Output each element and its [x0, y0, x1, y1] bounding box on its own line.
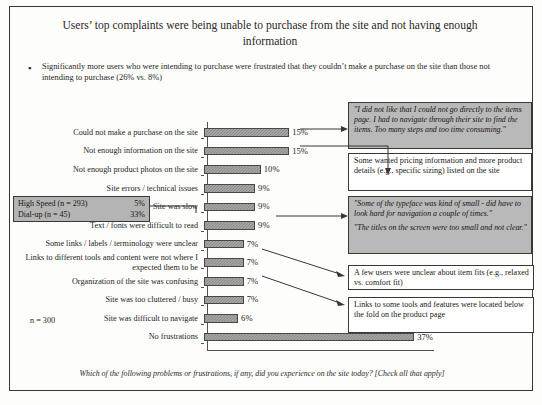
chart-bar [204, 296, 244, 305]
chart-category-label: Text / fonts were difficult to read [14, 221, 204, 231]
chart-tick [201, 324, 204, 325]
callout-pricing-details: Some wanted pricing information and more… [348, 153, 532, 191]
callout-quote-typeface: "Some of the typeface was kind of small … [348, 196, 532, 254]
chart-category-label: Site errors / technical issues [14, 184, 204, 194]
chart-tick [201, 194, 204, 195]
chart-bar [204, 258, 244, 267]
page-title: Users’ top complaints were being unable … [40, 18, 500, 49]
chart-bar [204, 314, 238, 323]
chart-bar [204, 203, 255, 212]
chart-tick [201, 343, 204, 344]
chart-tick [201, 250, 204, 251]
bullet-marker-icon: ▪ [28, 61, 42, 75]
chart-value-label: 9% [258, 184, 269, 193]
chart-value-label: 9% [258, 221, 269, 230]
chart-tick [201, 157, 204, 158]
callout-item-fits: A few users were unclear about item fits… [348, 265, 534, 290]
callout-paragraph: A few users were unclear about item fits… [354, 268, 529, 289]
chart-x-axis [207, 350, 434, 351]
chart-value-label: 9% [258, 202, 269, 211]
chart-bar [204, 277, 244, 286]
chart-category-label: Not enough information on the site [14, 146, 204, 156]
callout-paragraph: Links to some tools and features were lo… [354, 300, 529, 321]
bullet-row: ▪ Significantly more users who were inte… [28, 61, 515, 84]
speed-breakdown-callout: High Speed (n = 293) 5% Dial-up (n = 45)… [13, 196, 150, 222]
chart-tick [201, 268, 204, 269]
speed-row: Dial-up (n = 45) 33% [18, 209, 145, 220]
chart-tick [201, 175, 204, 176]
chart-bar [204, 221, 255, 230]
chart-category-label: Links to different tools and content wer… [14, 253, 204, 271]
callout-paragraph: "The titles on the screen were too small… [354, 223, 527, 233]
footer-question: Which of the following problems or frust… [0, 369, 524, 378]
chart-value-label: 7% [247, 277, 258, 286]
speed-row-value: 5% [119, 198, 145, 209]
chart-tick [201, 138, 204, 139]
sample-size-label: n = 300 [30, 316, 55, 325]
chart-value-label: 7% [247, 295, 258, 304]
chart-tick [201, 212, 204, 213]
slide-canvas: Users’ top complaints were being unable … [0, 0, 542, 405]
speed-row: High Speed (n = 293) 5% [18, 198, 145, 209]
callout-quote-purchase: "I did not like that I could not go dire… [348, 102, 532, 149]
chart-value-label: 37% [417, 333, 433, 342]
chart-category-label: Could not make a purchase on the site [14, 128, 204, 138]
chart-value-label: 15% [292, 128, 308, 137]
chart-value-label: 6% [241, 314, 252, 323]
chart-tick [201, 231, 204, 232]
chart-bar [204, 184, 255, 193]
chart-bar [204, 128, 289, 137]
chart-bar [204, 147, 289, 156]
chart-category-label: Organization of the site was confusing [14, 277, 204, 287]
callout-paragraph: "Some of the typeface was kind of small … [354, 199, 527, 219]
chart-bar [204, 240, 244, 249]
chart-bar [204, 165, 261, 174]
chart-category-label: Not enough product photos on the site [14, 165, 204, 175]
bullet-text: Significantly more users who were intend… [42, 61, 515, 84]
chart-category-label: Some links / labels / terminology were u… [14, 239, 204, 248]
speed-row-label: High Speed (n = 293) [18, 198, 119, 209]
chart-bar [204, 333, 414, 342]
chart-value-label: 10% [264, 165, 280, 174]
chart-value-label: 7% [247, 258, 258, 267]
callout-paragraph: "I did not like that I could not go dire… [354, 105, 527, 135]
callout-paragraph: Some wanted pricing information and more… [354, 156, 527, 177]
chart-tick [201, 287, 204, 288]
chart-category-label: No frustrations [14, 332, 204, 342]
speed-row-label: Dial-up (n = 45) [18, 209, 119, 220]
speed-row-value: 33% [119, 209, 145, 220]
chart-category-label: Site was too cluttered / busy [14, 295, 204, 305]
chart-tick [201, 305, 204, 306]
callout-below-fold: Links to some tools and features were lo… [348, 297, 534, 333]
chart-value-label: 7% [247, 240, 258, 249]
chart-value-label: 15% [292, 147, 308, 156]
